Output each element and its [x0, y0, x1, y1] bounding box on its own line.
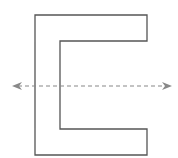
c-shape — [35, 15, 147, 155]
diagram-canvas — [0, 0, 178, 158]
arrow-right-icon — [162, 82, 172, 90]
